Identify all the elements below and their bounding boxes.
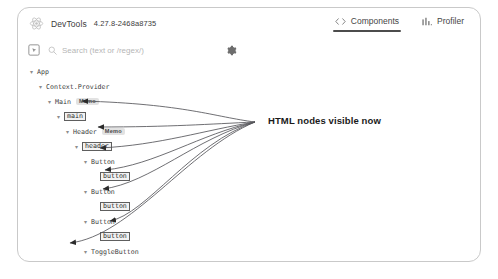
chevron-down-icon[interactable]: ▾: [48, 99, 55, 105]
tree-node[interactable]: ▾Context.Provider: [30, 79, 248, 94]
tree-node[interactable]: ▾Button: [30, 259, 248, 262]
tree-node[interactable]: ▾Button: [30, 214, 248, 229]
memo-badge: Memo: [102, 128, 125, 136]
chevron-down-icon[interactable]: ▾: [84, 189, 91, 195]
react-logo-icon: [29, 16, 44, 31]
search-input[interactable]: [62, 46, 212, 55]
element-picker-icon[interactable]: [27, 44, 40, 57]
chevron-down-icon[interactable]: ▾: [75, 144, 82, 150]
chevron-down-icon[interactable]: ▾: [57, 114, 64, 120]
chevron-down-icon[interactable]: ▾: [84, 159, 91, 165]
chevron-down-icon[interactable]: ▾: [39, 84, 46, 90]
tree-node[interactable]: ▾Button: [30, 184, 248, 199]
screenshot-root: DevTools 4.27.8-2468a8735 Components: [0, 0, 498, 279]
brand: DevTools 4.27.8-2468a8735: [29, 16, 156, 31]
tree-node-label: Button: [91, 188, 115, 196]
chevron-down-icon[interactable]: ▾: [84, 249, 91, 255]
devtools-panel: DevTools 4.27.8-2468a8735 Components: [17, 7, 481, 262]
chevron-down-icon[interactable]: ▾: [66, 129, 73, 135]
tree-node-label: Button: [91, 218, 115, 226]
tree-node[interactable]: button: [30, 199, 248, 214]
tree-node-html-label: main: [64, 112, 86, 122]
chevron-down-icon[interactable]: ▾: [84, 219, 91, 225]
search-icon: [48, 46, 57, 55]
app-name: DevTools: [51, 19, 87, 29]
tree-node[interactable]: button: [30, 169, 248, 184]
search-field[interactable]: [48, 46, 212, 55]
tree-node[interactable]: ▾App: [30, 64, 248, 79]
tree-node-label: Main: [55, 98, 71, 106]
devtools-titlebar: DevTools 4.27.8-2468a8735 Components: [18, 8, 480, 39]
bar-chart-icon: [421, 16, 432, 26]
tree-node[interactable]: ▾ToggleButton: [30, 244, 248, 259]
tree-node[interactable]: button: [30, 229, 248, 244]
annotation-label: HTML nodes visible now: [268, 115, 381, 126]
tree-node-html-label: button: [100, 232, 130, 242]
tab-components-label: Components: [351, 16, 399, 26]
gear-icon[interactable]: [226, 45, 237, 56]
tree-node-label: App: [37, 68, 49, 76]
tree-node[interactable]: ▾MainMemo: [30, 94, 248, 109]
code-brackets-icon: [335, 16, 346, 26]
devtools-toolbar: [18, 39, 480, 61]
tree-node-label: Context.Provider: [46, 83, 110, 91]
tree-node-label: ToggleButton: [91, 248, 139, 256]
tree-node-html-label: header: [82, 142, 112, 152]
tree-node[interactable]: ▾header: [30, 139, 248, 154]
tab-profiler[interactable]: Profiler: [421, 16, 464, 31]
tab-profiler-label: Profiler: [437, 16, 464, 26]
tree-node[interactable]: ▾main: [30, 109, 248, 124]
tree-node-label: Header: [73, 128, 97, 136]
memo-badge: Memo: [76, 98, 99, 106]
component-tree: ▾App▾Context.Provider▾MainMemo▾main▾Head…: [18, 64, 248, 262]
tree-node[interactable]: ▾HeaderMemo: [30, 124, 248, 139]
tree-node-html-label: button: [100, 202, 130, 212]
tree-node-label: Button: [91, 158, 115, 166]
tab-components[interactable]: Components: [335, 16, 399, 31]
app-version: 4.27.8-2468a8735: [94, 19, 157, 28]
tree-node[interactable]: ▾Button: [30, 154, 248, 169]
chevron-down-icon[interactable]: ▾: [30, 69, 37, 75]
panel-tabs: Components Profiler: [335, 16, 466, 31]
tree-node-html-label: button: [100, 172, 130, 182]
